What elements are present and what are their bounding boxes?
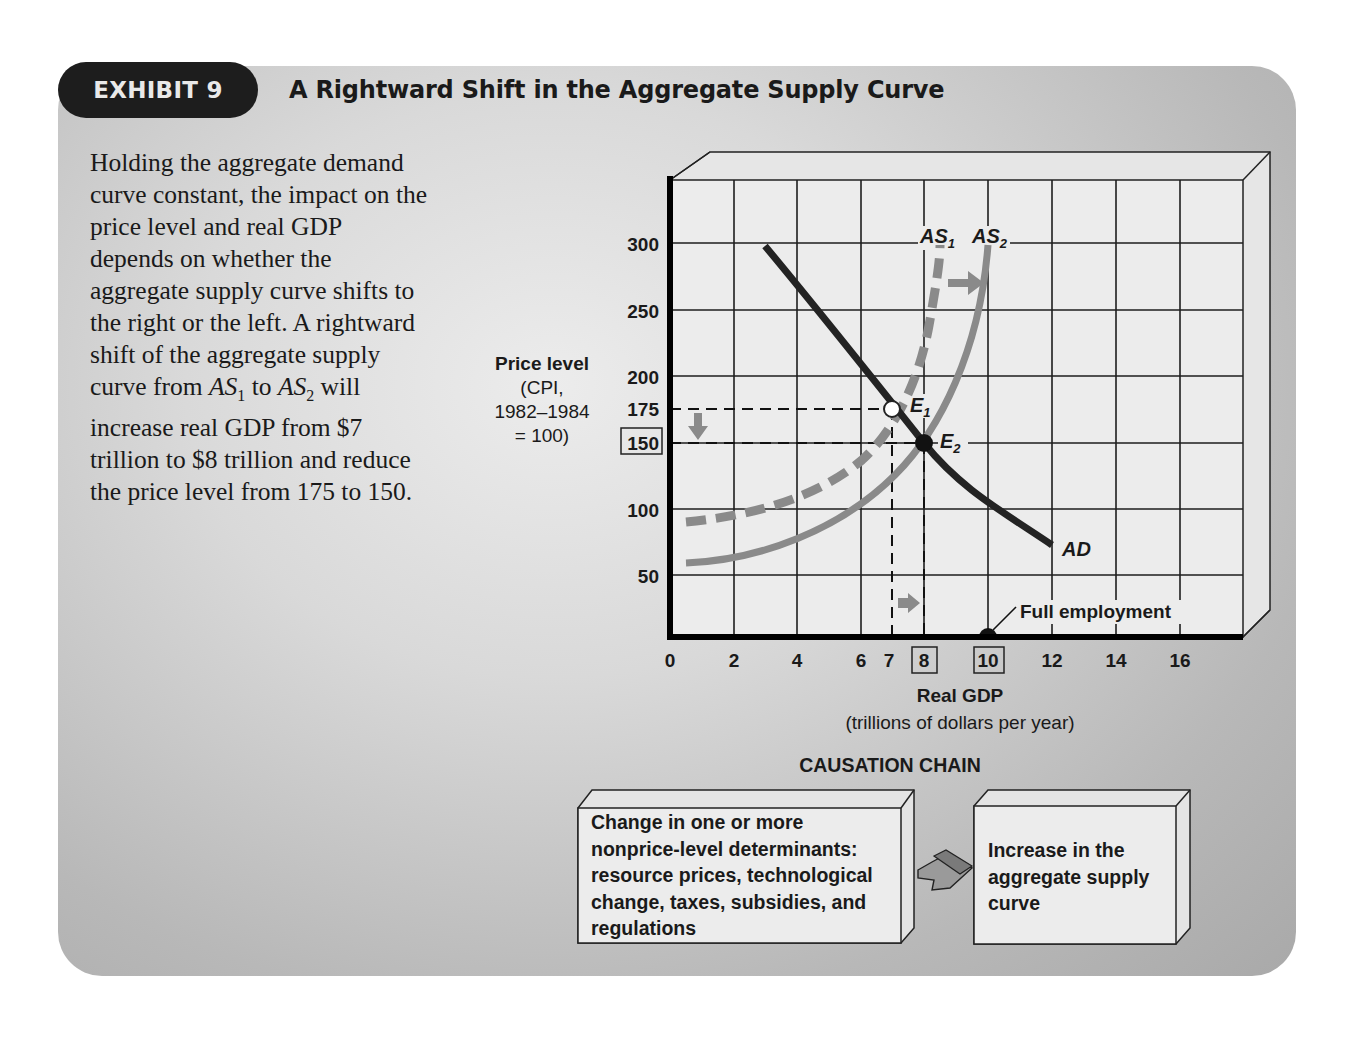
y-tick-labels: 300 250 200 175 150 100 50 (627, 234, 659, 587)
svg-text:250: 250 (627, 301, 659, 322)
svg-text:175: 175 (627, 399, 659, 420)
svg-text:0: 0 (665, 650, 676, 671)
svg-text:8: 8 (919, 650, 930, 671)
svg-text:14: 14 (1105, 650, 1127, 671)
svg-text:12: 12 (1041, 650, 1062, 671)
svg-text:300: 300 (627, 234, 659, 255)
svg-text:16: 16 (1169, 650, 1190, 671)
e2-point (915, 434, 933, 452)
full-employment-label: Full employment (1020, 601, 1172, 622)
causation-box-2-text: Increase in the aggregate supply curve (988, 837, 1149, 917)
svg-text:10: 10 (977, 650, 998, 671)
causation-box-1-line: change, taxes, subsidies, and (591, 889, 873, 916)
causation-arrow-icon (918, 850, 972, 890)
svg-text:4: 4 (792, 650, 803, 671)
x-axis-subtitle: (trillions of dollars per year) (790, 709, 1130, 736)
svg-text:50: 50 (638, 566, 659, 587)
causation-box-1-line: nonprice-level determinants: (591, 836, 873, 863)
causation-box-2-line: aggregate supply (988, 864, 1149, 891)
causation-chain-title: CAUSATION CHAIN (740, 754, 1040, 777)
svg-text:6: 6 (856, 650, 867, 671)
svg-text:200: 200 (627, 367, 659, 388)
svg-text:150: 150 (627, 433, 659, 454)
causation-box-1-line: Change in one or more (591, 809, 873, 836)
svg-text:2: 2 (729, 650, 740, 671)
causation-box-2-line: Increase in the (988, 837, 1149, 864)
svg-text:100: 100 (627, 500, 659, 521)
e1-point (884, 401, 900, 417)
causation-box-1-text: Change in one or more nonprice-level det… (591, 809, 873, 942)
causation-box-2-line: curve (988, 890, 1149, 917)
causation-box-1-line: resource prices, technological (591, 862, 873, 889)
x-axis-label: Real GDP (trillions of dollars per year) (790, 682, 1130, 736)
causation-box-1-line: regulations (591, 915, 873, 942)
x-axis-title: Real GDP (790, 682, 1130, 709)
ad-label: AD (1061, 538, 1091, 560)
svg-text:7: 7 (884, 650, 895, 671)
x-tick-labels: 0 2 4 6 7 8 10 12 14 16 (665, 650, 1191, 671)
